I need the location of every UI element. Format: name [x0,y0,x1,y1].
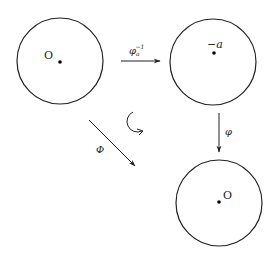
disk-left: O [17,18,103,104]
minus-a-label: −a [207,38,223,51]
clockwise-circular-arrow-icon [127,112,143,135]
Phi-label: Φ [96,144,104,155]
origin-label: O [223,189,232,202]
commutative-diagram: O −a O φa−1 φ Φ [0,0,278,256]
arrow-horizontal: φa−1 [121,43,160,61]
center-point [217,200,221,204]
arc [127,112,142,132]
point-minus-a [212,51,216,55]
center-point [58,60,62,64]
disk-right-top: −a [170,19,256,105]
phi-label: φ [225,126,232,137]
unit-circle [170,19,256,105]
origin-label: O [44,49,53,62]
phi-a-inverse-label: φa−1 [129,43,144,57]
arrow-vertical: φ [219,113,232,152]
disk-right-bottom: O [176,160,262,246]
